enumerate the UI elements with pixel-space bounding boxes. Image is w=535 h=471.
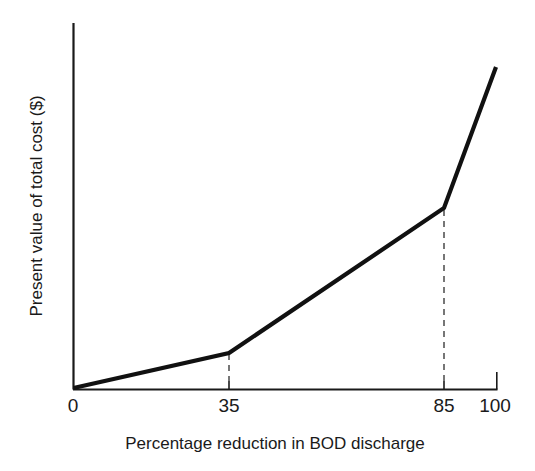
x-tick-label-100: 100 [479, 395, 511, 416]
x-tick-label-85: 85 [433, 395, 454, 416]
x-tick-label-0: 0 [68, 395, 79, 416]
x-axis-title: Percentage reduction in BOD discharge [125, 434, 425, 453]
chart-figure: 0 35 85 100 Percentage reduction in BOD … [0, 0, 535, 471]
chart-background [0, 0, 535, 471]
x-tick-label-35: 35 [218, 395, 239, 416]
cost-vs-bod-reduction-line-chart: 0 35 85 100 Percentage reduction in BOD … [0, 0, 535, 471]
y-axis-title: Present value of total cost ($) [27, 95, 46, 316]
